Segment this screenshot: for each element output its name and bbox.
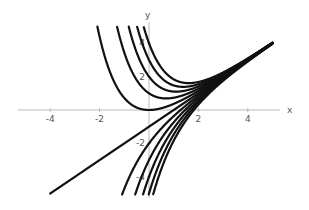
solution-curve	[143, 44, 272, 195]
axes: x y -4-224 42-2-4	[18, 10, 293, 198]
y-tick-label: 2	[139, 72, 145, 82]
x-tick-label: 4	[245, 114, 251, 124]
y-tick-label: -2	[136, 138, 145, 148]
y-axis-label: y	[145, 10, 151, 20]
x-tick-label: 2	[196, 114, 202, 124]
x-axis-label: x	[287, 105, 293, 115]
x-tick-label: -2	[95, 114, 104, 124]
solution-curves	[50, 27, 272, 195]
x-tick-label: -4	[46, 114, 55, 124]
chart: x y -4-224 42-2-4	[0, 0, 309, 210]
plot-area: x y -4-224 42-2-4	[0, 0, 309, 210]
solution-curve	[97, 27, 272, 110]
solution-curve	[149, 44, 273, 195]
